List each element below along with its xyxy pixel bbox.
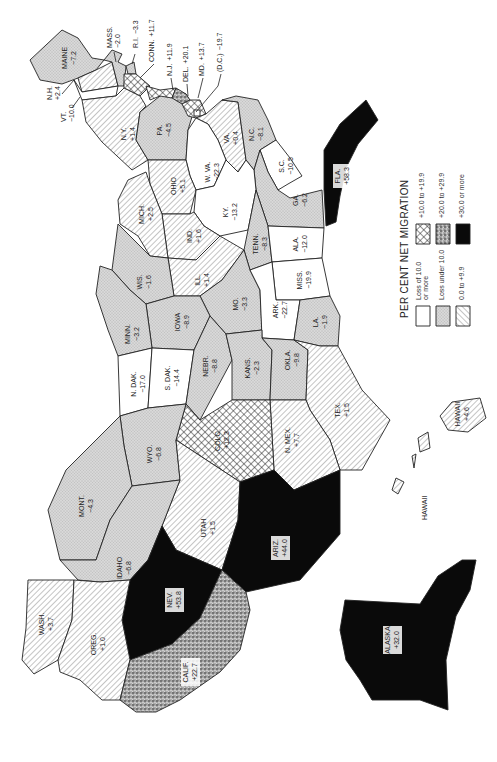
state-name: VA. [223, 133, 230, 144]
state-name: KY. [222, 207, 229, 217]
state-name: NEV. [166, 592, 173, 608]
state-name: ALA. [292, 236, 299, 251]
state-name: W. VA. [204, 162, 211, 183]
state-value: −8.1 [257, 127, 264, 141]
state-value: −7.2 [70, 51, 77, 65]
state-value: −3.3 [241, 297, 248, 311]
state-fla [324, 100, 378, 226]
state-value: −12.0 [301, 235, 308, 253]
svg-text:or more: or more [422, 276, 429, 300]
state-name: GA. [292, 194, 299, 206]
state-name: TENN. [252, 233, 259, 254]
label-nj: N.J.+11.9 [166, 43, 173, 76]
state-value: +4.6 [463, 407, 470, 421]
state-label-calif: CALIF.+22.7 [181, 658, 200, 686]
label-vt: VT.−10.0 [60, 104, 75, 122]
state-value: +53.8 [175, 591, 182, 609]
state-value: −13.2 [231, 203, 238, 221]
state-name: N. MEX. [284, 427, 291, 453]
label-dc: (D.C.)−19.7 [216, 33, 224, 72]
state-value: +12.3 [223, 431, 230, 449]
state-hawaii [392, 398, 486, 494]
state-value: +1.4 [129, 127, 136, 141]
state-value: −8.8 [211, 359, 218, 373]
state-name: KANS. [244, 357, 251, 378]
state-name: OREG. [90, 633, 97, 656]
state-name: WYO. [146, 445, 153, 464]
state-name: ALASKA [384, 626, 391, 654]
state-label-ariz: ARIZ.+44.0 [271, 536, 290, 560]
state-name: S.C. [278, 159, 285, 173]
state-name: MINN. [124, 324, 131, 344]
state-label-fla: FLA.+58.3 [333, 164, 352, 188]
state-value: −3.2 [133, 327, 140, 341]
state-value: +0.4 [232, 131, 239, 145]
state-name: MICH. [138, 204, 145, 224]
state-name: CALIF. [182, 661, 189, 682]
state-name: ARIZ. [272, 539, 279, 557]
state-name: IND. [186, 229, 193, 243]
state-value: −8.9 [183, 315, 190, 329]
state-value: +22.7 [191, 663, 198, 681]
state-ri [126, 62, 136, 74]
state-name: MO. [232, 297, 239, 310]
state-name: LA. [312, 317, 319, 328]
state-name: TEX. [334, 402, 341, 418]
state-value: −4.3 [87, 499, 94, 513]
legend: PER CENT NET MIGRATION Loss of 10.0 or m… [399, 173, 470, 326]
legend-item-30-or-more: +30.0 or more [456, 174, 470, 244]
label-ri: R.I.−3.3 [132, 20, 139, 48]
label-conn: CONN.+11.7 [148, 19, 155, 62]
state-value: +32.0 [393, 631, 400, 649]
state-name: N.C. [248, 127, 255, 141]
state-name: COLO. [214, 429, 221, 451]
label-hawaii-region: HAWAII [421, 496, 428, 520]
state-name: PA. [156, 125, 163, 136]
leader-del [187, 84, 188, 96]
legend-item-20-to-29-9: +20.0 to +29.9 [436, 173, 450, 244]
svg-text:+20.0 to +29.9: +20.0 to +29.9 [438, 173, 445, 218]
state-name: ARK. [272, 302, 279, 318]
state-value: −6.8 [155, 447, 162, 461]
state-value: +1.4 [203, 273, 210, 287]
leader-md [198, 78, 203, 98]
state-value: −6.8 [125, 561, 132, 575]
state-value: −17.0 [139, 375, 146, 393]
state-value: +58.3 [343, 167, 350, 185]
state-name: MISS. [296, 270, 303, 289]
svg-text:+30.0 or more: +30.0 or more [458, 174, 465, 218]
state-value: −2.3 [253, 361, 260, 375]
state-label-alaska: ALASKA+32.0 [383, 626, 402, 654]
label-mass: MASS.−2.0 [106, 26, 121, 48]
state-name: N.Y. [120, 128, 127, 141]
state-name: OHIO [170, 177, 177, 195]
state-name: S. DAK. [164, 366, 171, 391]
state-value: −10.5 [287, 157, 294, 175]
svg-text:0.0 to +9.9: 0.0 to +9.9 [458, 267, 465, 300]
state-name: HAWAII [454, 402, 461, 426]
state-value: −19.9 [305, 271, 312, 289]
state-alaska [340, 560, 476, 710]
state-value: −4.5 [165, 123, 172, 137]
state-name: ILL. [194, 274, 201, 286]
state-name: NEBR. [202, 355, 209, 376]
net-migration-map: MAINE−7.2N.Y.+1.4PA.−4.5VA.+0.4W. VA.−22… [0, 0, 497, 762]
svg-text:+10.0 to +19.9: +10.0 to +19.9 [418, 173, 425, 218]
state-value: +1.5 [343, 403, 350, 417]
label-nh: N.H.+2.4 [46, 86, 61, 100]
state-value: +7.7 [293, 433, 300, 447]
state-value: +1.0 [99, 637, 106, 651]
state-value: −8.3 [261, 237, 268, 251]
state-name: IDAHO [116, 556, 123, 579]
svg-text:Loss of 10.0: Loss of 10.0 [415, 262, 422, 300]
leader-conn [140, 64, 154, 78]
state-name: OKLA. [284, 350, 291, 371]
state-name: MAINE [61, 47, 68, 70]
state-value: −14.4 [173, 369, 180, 387]
state-name: FLA. [334, 169, 341, 184]
state-label-nev: NEV.+53.8 [165, 588, 184, 612]
state-value: −22.7 [281, 301, 288, 319]
state-value: +2.5 [147, 207, 154, 221]
state-value: −9.8 [293, 353, 300, 367]
state-name: N. DAK. [130, 371, 137, 396]
